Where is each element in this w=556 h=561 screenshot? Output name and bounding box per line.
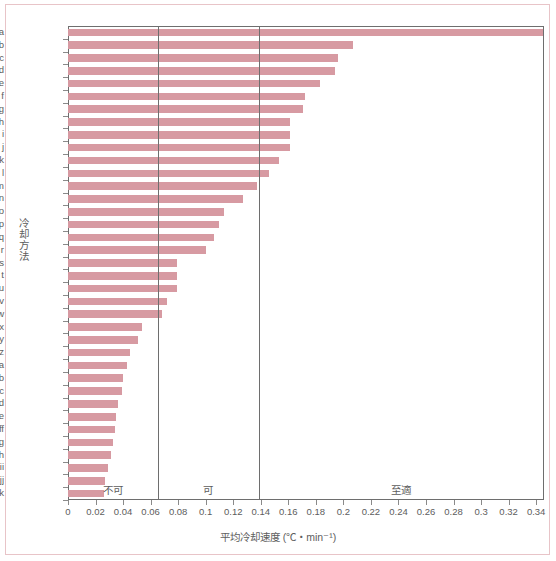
y-tick-label: cc (0, 386, 4, 396)
region-divider (158, 26, 159, 500)
x-tick-label: 0.34 (516, 506, 556, 517)
y-tick-mark (63, 180, 68, 181)
bar-row (68, 154, 544, 167)
bar (68, 464, 108, 472)
bar (68, 413, 116, 421)
y-tick-label: n (0, 193, 4, 203)
bar (68, 285, 177, 293)
y-tick-mark (63, 372, 68, 373)
y-tick-label: a (0, 27, 4, 37)
bar-row (68, 462, 544, 475)
bar-row (68, 205, 544, 218)
bar-row (68, 180, 544, 193)
y-tick-label: ii (0, 462, 4, 472)
bar (68, 118, 290, 126)
y-tick-label: o (0, 206, 4, 216)
bar-row (68, 308, 544, 321)
y-tick-mark (63, 321, 68, 322)
y-tick-label: dd (0, 398, 4, 408)
x-tick-mark (398, 500, 399, 505)
y-tick-label: p (0, 219, 4, 229)
y-tick-mark (63, 64, 68, 65)
bar-row (68, 359, 544, 372)
y-tick-mark (63, 269, 68, 270)
bar (68, 41, 353, 49)
y-tick-mark (63, 205, 68, 206)
bar (68, 144, 290, 152)
bar (68, 400, 118, 408)
y-tick-label: m (0, 181, 4, 191)
x-axis-title: 平均冷却速度 (℃・min⁻¹) (0, 529, 556, 544)
bar (68, 157, 279, 165)
bar-row (68, 436, 544, 449)
bar (68, 362, 127, 370)
bar-row (68, 64, 544, 77)
y-tick-label: hh (0, 450, 4, 460)
bar-row (68, 141, 544, 154)
bar-row (68, 385, 544, 398)
bar (68, 105, 303, 113)
bar (68, 272, 177, 280)
bar (68, 221, 219, 229)
y-tick-label: b (0, 40, 4, 50)
bar (68, 374, 123, 382)
x-tick-mark (454, 500, 455, 505)
bar (68, 234, 214, 242)
y-tick-mark (63, 39, 68, 40)
bar-row (68, 295, 544, 308)
y-tick-label: ee (0, 411, 4, 421)
y-tick-mark (63, 116, 68, 117)
bar (68, 439, 113, 447)
bar-row (68, 346, 544, 359)
bar-row (68, 116, 544, 129)
bar (68, 349, 130, 357)
y-tick-mark (63, 193, 68, 194)
bar (68, 451, 111, 459)
x-tick-mark (481, 500, 482, 505)
bar (68, 246, 206, 254)
y-tick-mark (63, 90, 68, 91)
y-tick-mark (63, 295, 68, 296)
y-tick-mark (63, 359, 68, 360)
y-tick-mark (63, 77, 68, 78)
bar-row (68, 218, 544, 231)
bar-row (68, 269, 544, 282)
y-tick-mark (63, 308, 68, 309)
y-tick-mark (63, 385, 68, 386)
bar-row (68, 410, 544, 423)
y-tick-label: f (0, 91, 4, 101)
x-tick-mark (261, 500, 262, 505)
x-tick-mark (509, 500, 510, 505)
y-tick-label: y (0, 334, 4, 344)
x-tick-mark (536, 500, 537, 505)
y-tick-label: kk (0, 488, 4, 498)
bar (68, 80, 320, 88)
y-tick-mark (63, 462, 68, 463)
bar (68, 67, 335, 75)
y-tick-label: s (0, 258, 4, 268)
region-label: 不可 (83, 482, 143, 497)
y-tick-mark (63, 52, 68, 53)
y-tick-mark (63, 487, 68, 488)
bar-row (68, 77, 544, 90)
y-tick-label: r (0, 245, 4, 255)
bar-row (68, 39, 544, 52)
bar (68, 323, 142, 331)
bar-row (68, 398, 544, 411)
bar-chart: abcdefghijklmnopqrstuvwxyzaabbccddeeffgg… (0, 0, 556, 561)
bar-row (68, 193, 544, 206)
y-tick-mark (63, 436, 68, 437)
x-tick-mark (233, 500, 234, 505)
bar-row (68, 282, 544, 295)
y-tick-mark (63, 103, 68, 104)
y-tick-label: bb (0, 373, 4, 383)
x-tick-mark (123, 500, 124, 505)
x-tick-mark (288, 500, 289, 505)
x-tick-mark (151, 500, 152, 505)
bar-row (68, 449, 544, 462)
bar (68, 182, 257, 190)
y-tick-mark (63, 449, 68, 450)
bar (68, 310, 162, 318)
y-tick-mark (63, 333, 68, 334)
x-tick-mark (316, 500, 317, 505)
